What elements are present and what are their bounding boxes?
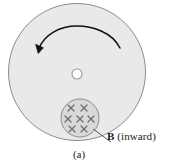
figure-canvas <box>0 0 169 168</box>
magnetic-field-region <box>61 99 99 137</box>
center-axle-hole <box>72 69 82 79</box>
figure-root: B (inward) (a) <box>0 0 169 168</box>
